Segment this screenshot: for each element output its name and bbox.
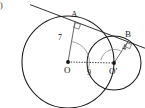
center-point-O [66,60,70,64]
point-label-B: B [125,30,131,39]
center-distance-label-9: 9 [87,69,91,77]
angle-arc-at-Oprime [101,49,122,60]
geometry-figure: ) A B 7 4 O O' 9 [0,0,145,108]
radius-label-7: 7 [58,34,62,42]
corner-mark: ) [0,2,3,10]
center-label-O-prime: O' [109,67,117,76]
center-point-Oprime [112,61,116,65]
center-label-O: O [64,66,71,75]
center-distance-line [68,62,114,63]
point-label-A: A [71,10,78,19]
right-angle-marker-B [126,43,132,49]
radius-label-4: 4 [122,44,126,52]
